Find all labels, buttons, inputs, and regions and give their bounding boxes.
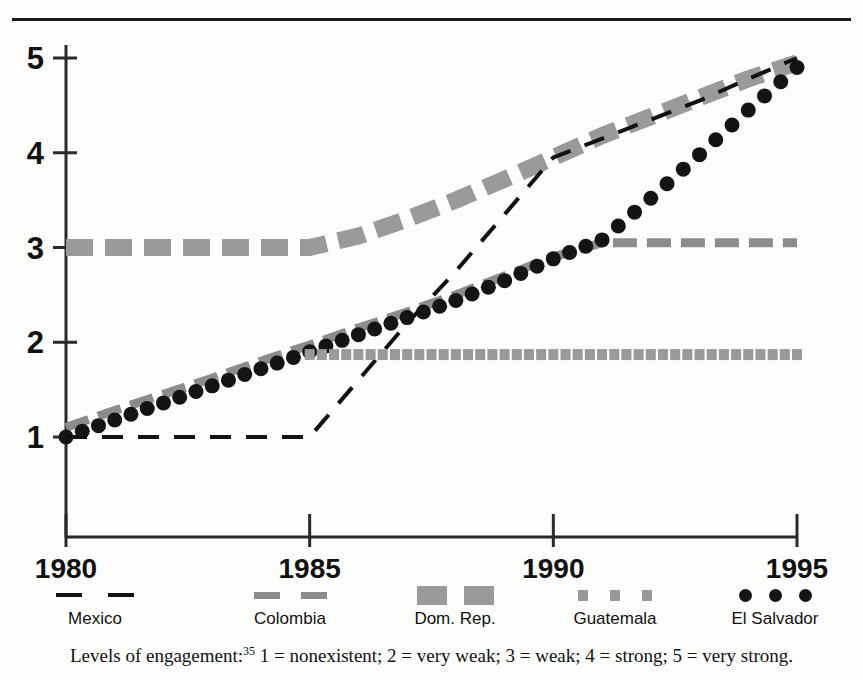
legend-marker [799,589,812,602]
data-marker [670,349,680,360]
data-point [692,147,707,162]
data-marker [561,349,571,360]
legend-label: Mexico [20,609,170,629]
data-marker [500,349,510,360]
data-marker [597,349,607,360]
data-point [513,266,528,281]
legend-marker [254,592,280,599]
series-layer [59,58,805,445]
data-marker [658,349,668,360]
data-point [253,361,268,376]
axes-group [66,45,797,537]
caption-body: 1 = nonexistent; 2 = very weak; 3 = weak… [255,645,793,666]
legend-swatch-thick-dash-gray-icon [380,586,530,604]
data-marker [792,349,802,360]
legend-marker [301,592,327,599]
data-point [708,132,723,147]
data-marker [743,349,753,360]
data-marker [317,349,327,360]
y-axis-label-5: 5 [27,41,44,76]
caption-footnote-marker: 35 [243,644,255,658]
chart-plot-area: 12345 1980198519901995 [0,0,863,600]
figure-container: 12345 1980198519901995 MexicoColombiaDom… [0,0,863,680]
data-point [497,273,512,288]
data-point [757,88,772,103]
data-point [660,176,675,191]
data-marker [378,349,388,360]
data-marker [524,349,534,360]
series-dom-rep [66,63,797,248]
data-marker [451,349,461,360]
data-point [237,367,252,382]
data-marker [646,349,656,360]
data-marker [305,349,315,360]
series-line [66,63,797,248]
data-marker [427,349,437,360]
legend-item-colombia[interactable]: Colombia [215,586,365,629]
legend-label: El Salvador [700,609,850,629]
legend-label: Dom. Rep. [380,609,530,629]
data-point [188,384,203,399]
data-marker [695,349,705,360]
data-marker [780,349,790,360]
series-guatemala [305,349,802,360]
x-axis-label-1995: 1995 [766,553,828,584]
data-marker [634,349,644,360]
legend-marker [108,593,134,597]
data-point [205,378,220,393]
data-marker [731,349,741,360]
legend-item-guatemala[interactable]: Guatemala [540,586,690,629]
data-marker [548,349,558,360]
data-point [335,333,350,348]
data-point [286,350,301,365]
legend-swatch-filled-circle-black-icon [700,586,850,604]
data-marker [768,349,778,360]
legend-swatch-small-square-gray-icon [540,586,690,604]
data-marker [341,349,351,360]
legend-item-dom-rep[interactable]: Dom. Rep. [380,586,530,629]
legend-item-mexico[interactable]: Mexico [20,586,170,629]
data-point [221,373,236,388]
legend-item-el-salvador[interactable]: El Salvador [700,586,850,629]
data-marker [719,349,729,360]
data-marker [402,349,412,360]
data-point [562,245,577,260]
data-marker [390,349,400,360]
data-point [351,327,366,342]
data-marker [475,349,485,360]
series-line [66,58,797,437]
legend-marker [769,589,782,602]
y-axis-label-4: 4 [27,136,45,171]
y-axis-label-3: 3 [27,231,44,266]
data-point [383,316,398,331]
data-marker [439,349,449,360]
data-marker [329,349,339,360]
x-tick-marks [66,514,797,547]
legend-marker [56,593,82,597]
data-point [627,205,642,220]
data-point [91,418,106,433]
data-marker [621,349,631,360]
data-point [643,191,658,206]
data-marker [707,349,717,360]
legend-swatch-dashed-line-gray-icon [215,586,365,604]
data-marker [585,349,595,360]
legend-marker [739,589,752,602]
data-point [107,412,122,427]
y-axis-label-2: 2 [27,325,44,360]
data-point [481,280,496,295]
chart-svg: 12345 1980198519901995 [0,0,863,600]
x-axis-label-1990: 1990 [522,553,584,584]
legend-marker [642,590,652,601]
data-marker [536,349,546,360]
data-point [172,390,187,405]
data-point [270,356,285,371]
data-point [773,74,788,89]
data-point [676,162,691,177]
legend-marker [417,586,447,605]
data-point [595,232,610,247]
data-marker [414,349,424,360]
data-marker [609,349,619,360]
data-marker [573,349,583,360]
data-point [448,293,463,308]
